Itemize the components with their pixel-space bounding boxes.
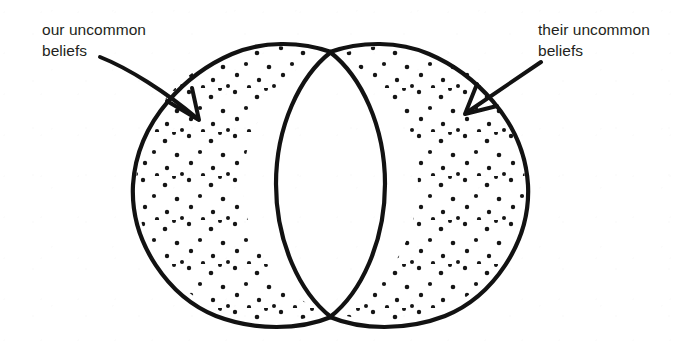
diagram-canvas: our uncommon beliefs their uncommon beli… [0, 0, 700, 350]
label-right-line1: their uncommon [538, 21, 650, 38]
venn-diagram-figure: our uncommon beliefs their uncommon beli… [0, 0, 700, 350]
label-left-line1: our uncommon [42, 21, 146, 38]
label-left-line2: beliefs [42, 42, 87, 59]
label-right-line2: beliefs [538, 42, 583, 59]
